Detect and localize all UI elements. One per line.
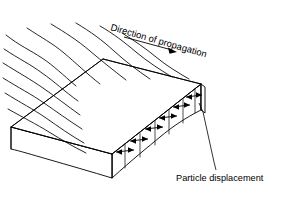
wave-propagation-diagram: Direction of propagation Particle displa… (0, 0, 283, 200)
particle-displacement-label: Particle displacement (176, 173, 264, 183)
wavefront-line (6, 35, 76, 86)
figure-root: Direction of propagation Particle displa… (0, 0, 283, 200)
slab-block (11, 59, 205, 178)
direction-of-propagation-label: Direction of propagation (109, 21, 208, 59)
particle-displacement-leader (199, 103, 216, 170)
